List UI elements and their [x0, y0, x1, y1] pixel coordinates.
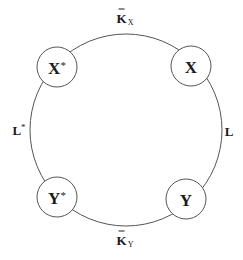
edge-label-kx-main: K — [117, 12, 127, 25]
edge-label-ky-subscript: Y — [128, 240, 134, 249]
node-x: X — [185, 59, 197, 76]
edge-label-l: L — [225, 125, 234, 138]
node-y-star-label: Y — [48, 189, 60, 208]
edge-label-l-star-superscript: * — [21, 122, 26, 132]
node-x-star-superscript: * — [60, 59, 66, 71]
node-y-star-superscript: * — [60, 189, 66, 201]
edge-label-l-main: L — [225, 124, 234, 139]
node-y-label: Y — [180, 191, 192, 210]
node-y-star: Y* — [48, 190, 66, 207]
edge-label-ky: KY — [117, 234, 134, 249]
diagram-canvas — [0, 0, 243, 260]
edge-label-kx-subscript: X — [128, 18, 134, 27]
node-x-star: X* — [48, 60, 66, 77]
node-x-label: X — [185, 58, 197, 77]
edge-label-kx: KX — [117, 12, 134, 27]
node-x-star-label: X — [48, 59, 60, 78]
edge-label-l-star: L* — [12, 123, 25, 137]
edge-label-l-star-main: L — [12, 123, 21, 138]
node-y: Y — [180, 192, 192, 209]
edge-label-ky-main: K — [117, 234, 127, 247]
